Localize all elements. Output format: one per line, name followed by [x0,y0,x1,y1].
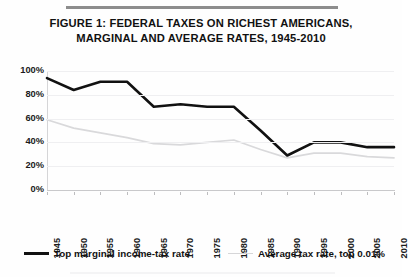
x-axis-tick-1995 [314,192,315,195]
y-axis-tick-label-0: 0% [8,184,44,194]
x-axis-tick-1945 [47,192,48,195]
legend-label-average: Average tax rate, top 0.01% [258,248,385,259]
y-axis-labels: 100%80%60%40%20%0% [4,0,44,277]
gridline-60 [47,119,394,120]
legend-item-average-tax-rate-top-001: Average tax rate, top 0.01% [228,248,385,259]
gridline-40 [47,142,394,143]
legend-label-marginal: Top marginal income-tax rate [54,248,190,259]
legend-item-top-marginal-income-tax-rate: Top marginal income-tax rate [24,248,190,259]
figure-title-line-2: MARGINAL AND AVERAGE RATES, 1945-2010 [0,31,402,46]
x-axis-labels: 1945195019551960196519701975198019851990… [47,192,395,240]
legend-line-swatch-average [228,253,253,255]
x-axis-tick-2010 [394,192,395,195]
x-axis-tick-1955 [100,192,101,195]
x-axis-tick-1975 [207,192,208,195]
y-axis-tick-label-20: 20% [8,160,44,170]
x-axis-tick-2005 [367,192,368,195]
x-axis-tick-1960 [127,192,128,195]
legend-line-swatch-marginal [24,252,49,255]
gridline-100 [47,71,394,72]
chart-series-layer [47,71,394,190]
x-axis-tick-1990 [287,192,288,195]
x-axis-tick-2000 [341,192,342,195]
x-axis-tick-1980 [234,192,235,195]
x-axis-tick-1965 [154,192,155,195]
y-axis-tick-label-80: 80% [8,89,44,99]
figure-title-line-1: FIGURE 1: FEDERAL TAXES ON RICHEST AMERI… [0,16,402,31]
figure-title: FIGURE 1: FEDERAL TAXES ON RICHEST AMERI… [0,16,402,46]
x-axis-line [47,190,395,191]
y-axis-tick-label-40: 40% [8,136,44,146]
series-line-top-marginal-income-tax-rate [47,78,394,155]
chart-legend: Top marginal income-tax rate Average tax… [0,248,402,268]
top-divider-rule [66,6,338,9]
x-axis-tick-1970 [180,192,181,195]
gridline-80 [47,95,394,96]
x-axis-tick-1950 [74,192,75,195]
gridline-20 [47,166,394,167]
x-axis-tick-1985 [261,192,262,195]
bottom-divider-rule [70,272,335,274]
y-axis-tick-label-60: 60% [8,113,44,123]
plot-area [47,71,394,190]
y-axis-tick-label-100: 100% [8,65,44,75]
series-line-average-tax-rate-top-001 [47,120,394,158]
